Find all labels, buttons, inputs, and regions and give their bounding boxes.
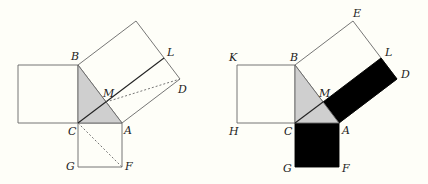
label-k: K: [228, 51, 238, 64]
pythagorean-diagram: B L M D C A G F E K B L D M H C A G F: [0, 0, 428, 184]
left-dashed-md: [106, 79, 180, 102]
right-triangle-abc: [295, 65, 339, 123]
label-a: A: [123, 124, 132, 137]
label-g: G: [66, 160, 75, 173]
label-g: G: [283, 162, 292, 175]
left-square-on-bc: [18, 65, 78, 123]
label-e: E: [352, 7, 361, 20]
label-m: M: [102, 87, 115, 100]
label-h: H: [228, 125, 239, 138]
right-black-square-on-ca: [295, 123, 339, 167]
left-dashed-cf: [78, 123, 122, 167]
label-b: B: [289, 51, 298, 64]
label-d: D: [177, 83, 187, 96]
label-a: A: [341, 124, 350, 137]
right-square-on-bc: [237, 65, 295, 123]
label-b: B: [70, 50, 79, 63]
label-l: L: [166, 46, 174, 59]
label-c: C: [68, 125, 77, 138]
label-f: F: [341, 162, 350, 175]
label-f: F: [124, 160, 133, 173]
right-black-rect-amld: [323, 58, 397, 123]
right-diagram: [237, 21, 397, 167]
label-m: M: [318, 87, 331, 100]
label-d: D: [400, 68, 410, 81]
left-triangle-abc: [78, 65, 122, 123]
label-l: L: [384, 46, 392, 59]
left-diagram: [18, 21, 180, 167]
label-c: C: [284, 125, 293, 138]
